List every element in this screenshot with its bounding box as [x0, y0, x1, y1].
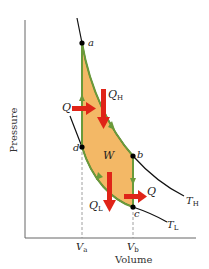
point-b-label: b: [137, 150, 143, 160]
ql-label: QL: [89, 200, 103, 213]
work-label: W: [103, 150, 114, 161]
point-d-label: d: [73, 143, 79, 153]
q-in-label: Q: [62, 102, 71, 113]
tl-label: TL: [167, 220, 178, 232]
point-b: [130, 153, 135, 158]
point-d: [79, 144, 84, 149]
qh-label: QH: [108, 89, 123, 102]
x-axis-label: Volume: [115, 255, 152, 265]
q-out-label: Q: [147, 186, 156, 197]
point-a-label: a: [88, 38, 94, 48]
y-axis-label: Pressure: [9, 108, 19, 153]
point-a: [79, 40, 84, 45]
tick-va: Va: [76, 242, 87, 254]
tick-vb: Vb: [127, 242, 139, 254]
point-c-label: c: [134, 209, 140, 219]
th-label: TH: [186, 196, 199, 208]
